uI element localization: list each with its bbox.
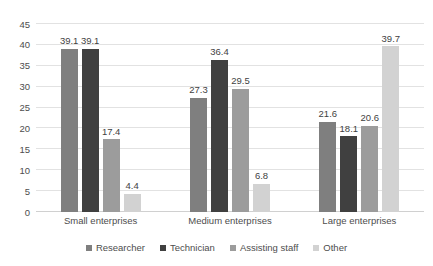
bar[interactable] [103,139,120,212]
legend-item[interactable]: Technician [160,243,215,253]
plot-area: 39.139.117.44.427.336.429.56.821.618.120… [36,24,424,212]
y-axis-tick-label: 5 [25,186,30,196]
bar-slot: 39.7 [382,24,399,212]
bar-value-label: 39.7 [382,34,401,44]
bar-value-label: 39.1 [60,36,79,46]
legend-item[interactable]: Other [313,243,347,253]
legend-swatch-icon [230,245,236,251]
bar-slot: 27.3 [190,24,207,212]
bar-value-label: 6.8 [255,171,268,181]
bar[interactable] [253,184,270,212]
bar-value-label: 29.5 [231,76,250,86]
bar-slot: 21.6 [319,24,336,212]
legend-label: Technician [170,243,215,253]
bar-value-label: 27.3 [189,85,208,95]
y-axis-tick-label: 30 [19,82,30,92]
y-axis-tick-label: 35 [19,61,30,71]
bar-cluster: 27.336.429.56.8 [165,24,294,212]
y-axis-tick-label: 40 [19,40,30,50]
y-axis-tick-label: 45 [19,19,30,29]
legend-item[interactable]: Assisting staff [230,243,298,253]
bar[interactable] [124,194,141,212]
bar-slot: 39.1 [61,24,78,212]
bar[interactable] [61,49,78,212]
bar-group: 39.139.117.44.4 [36,24,165,212]
bar[interactable] [211,60,228,212]
y-axis-tick-label: 10 [19,165,30,175]
bar[interactable] [361,126,378,212]
bar-slot: 29.5 [232,24,249,212]
legend-swatch-icon [160,245,166,251]
bar[interactable] [319,122,336,212]
x-axis-category-label: Small enterprises [36,216,165,226]
legend-label: Researcher [96,243,145,253]
x-axis-category-label: Large enterprises [295,216,424,226]
bar-slot: 36.4 [211,24,228,212]
bar[interactable] [82,49,99,212]
bar-value-label: 39.1 [81,36,100,46]
bar-slot: 18.1 [340,24,357,212]
bar-value-label: 18.1 [340,124,359,134]
bar-value-label: 20.6 [361,113,380,123]
bar-value-label: 36.4 [210,47,229,57]
bar-group: 21.618.120.639.7 [295,24,424,212]
legend-item[interactable]: Researcher [86,243,145,253]
bar-slot: 17.4 [103,24,120,212]
bar[interactable] [340,136,357,212]
legend-swatch-icon [86,245,92,251]
legend-swatch-icon [313,245,319,251]
bar[interactable] [382,46,399,212]
y-axis-tick-label: 25 [19,103,30,113]
x-axis-category-label: Medium enterprises [165,216,294,226]
y-axis-tick-labels: 051015202530354045 [0,24,30,212]
y-axis-tick-label: 20 [19,124,30,134]
bar-group: 27.336.429.56.8 [165,24,294,212]
y-axis-tick-label: 15 [19,145,30,155]
chart-legend: ResearcherTechnicianAssisting staffOther [0,243,433,253]
bar[interactable] [190,98,207,212]
bar[interactable] [232,89,249,212]
bar-slot: 20.6 [361,24,378,212]
legend-label: Assisting staff [240,243,298,253]
bar-value-label: 4.4 [126,181,139,191]
bar-cluster: 39.139.117.44.4 [36,24,165,212]
legend-label: Other [323,243,347,253]
bar-chart: 051015202530354045 39.139.117.44.427.336… [0,0,433,266]
bar-slot: 39.1 [82,24,99,212]
bar-value-label: 21.6 [319,109,338,119]
bar-cluster: 21.618.120.639.7 [295,24,424,212]
y-axis-tick-label: 0 [25,207,30,217]
bar-slot: 4.4 [124,24,141,212]
bar-value-label: 17.4 [102,127,121,137]
bar-slot: 6.8 [253,24,270,212]
